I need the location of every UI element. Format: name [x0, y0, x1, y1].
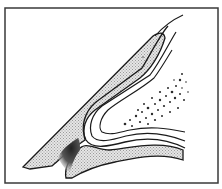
diagram-figure	[0, 0, 222, 189]
diagram-canvas	[0, 0, 222, 189]
wall-mark	[142, 56, 144, 58]
